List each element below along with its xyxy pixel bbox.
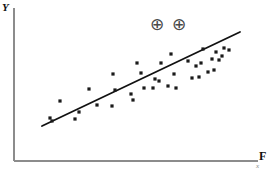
scatter-point: [174, 86, 177, 89]
scatter-point: [110, 104, 113, 107]
scatter-points-group: [48, 46, 230, 122]
scatter-point: [73, 117, 76, 120]
scatter-point: [210, 57, 213, 60]
scatter-point: [197, 75, 200, 78]
scatter-point: [87, 87, 90, 90]
scatter-point: [58, 99, 61, 102]
scatter-point: [199, 61, 202, 64]
scatter-point: [214, 50, 217, 53]
regression-line: [42, 32, 240, 126]
scatter-point: [113, 88, 116, 91]
axes-group: [14, 8, 258, 161]
scatter-point: [129, 92, 132, 95]
scatter-point: [201, 47, 204, 50]
scatter-point: [190, 76, 193, 79]
scatter-point: [217, 58, 220, 61]
scatter-point: [157, 79, 160, 82]
scatter-point: [166, 84, 169, 87]
scatter-point: [135, 61, 138, 64]
scatter-point: [212, 68, 215, 71]
scatter-point: [222, 46, 225, 49]
regression-line-path: [42, 32, 240, 126]
scatter-point: [48, 116, 51, 119]
scatter-point: [151, 86, 154, 89]
scatter-point: [186, 59, 189, 62]
scatter-point: [169, 52, 172, 55]
scatter-plot-figure: Y F x ⊕ ⊕: [0, 0, 276, 172]
circled-plus-icon-2: ⊕: [170, 15, 188, 33]
scatter-point: [142, 86, 145, 89]
scatter-point: [227, 48, 230, 51]
plot-canvas: [0, 0, 276, 172]
scatter-point: [153, 77, 156, 80]
scatter-point: [194, 64, 197, 67]
scatter-point: [131, 98, 134, 101]
scatter-point: [172, 72, 175, 75]
x-axis-label: F: [259, 150, 266, 162]
scatter-point: [111, 72, 114, 75]
scatter-point: [77, 110, 80, 113]
circled-plus-icon-1: ⊕: [148, 15, 166, 33]
scatter-point: [139, 71, 142, 74]
x-axis-sublabel: x: [256, 163, 259, 170]
scatter-point: [220, 54, 223, 57]
scatter-point: [50, 119, 53, 122]
y-axis-label: Y: [2, 2, 9, 13]
scatter-point: [95, 103, 98, 106]
scatter-point: [206, 70, 209, 73]
scatter-point: [159, 61, 162, 64]
